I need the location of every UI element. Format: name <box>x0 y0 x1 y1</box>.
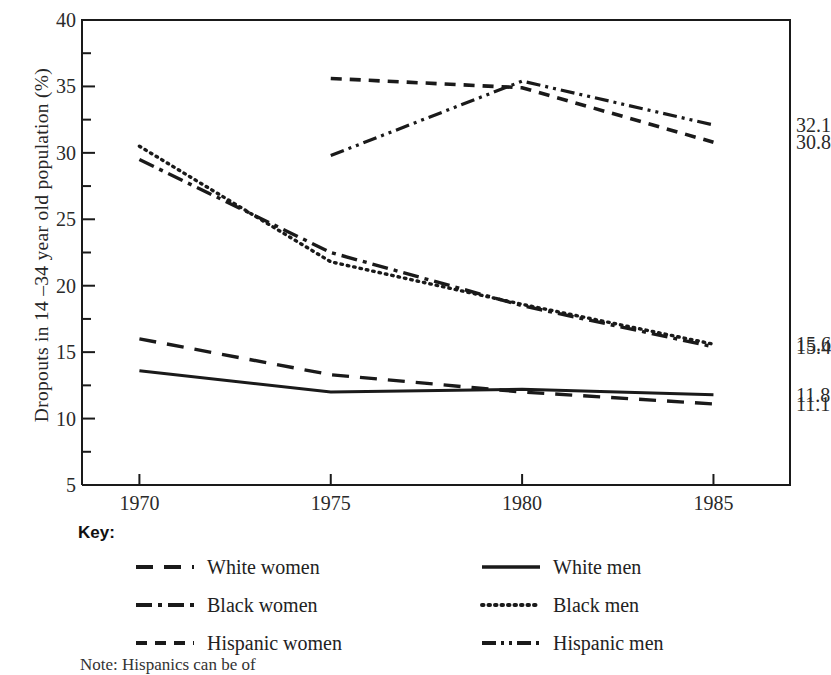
axes <box>82 20 790 485</box>
legend-item: Black women <box>134 591 318 619</box>
x-tick-label: 1975 <box>311 492 351 515</box>
legend-item: White men <box>480 553 641 581</box>
legend-swatch <box>480 595 542 615</box>
legend-line-sample <box>480 557 542 577</box>
legend-item: Black men <box>480 591 639 619</box>
legend-swatch <box>134 633 196 653</box>
series-line <box>139 146 713 344</box>
x-tick-label: 1970 <box>119 492 159 515</box>
y-tick-label: 40 <box>56 9 76 32</box>
legend-swatch <box>134 557 196 577</box>
series-lines <box>139 78 713 404</box>
x-tick-label: 1980 <box>502 492 542 515</box>
legend-item: White women <box>134 553 320 581</box>
legend-label: White men <box>553 557 641 577</box>
series-end-label: 11.8 <box>796 383 830 406</box>
y-tick-label: 10 <box>56 407 76 430</box>
legend-item: Hispanic men <box>480 629 664 657</box>
y-tick-label: 30 <box>56 141 76 164</box>
series-line <box>139 339 713 404</box>
legend-label: Hispanic men <box>553 633 664 653</box>
chart-svg <box>0 0 806 510</box>
legend-line-sample <box>480 595 542 615</box>
y-tick-label: 20 <box>56 274 76 297</box>
legend-line-sample <box>134 595 196 615</box>
figure-footnote: Note: Hispanics can be of <box>80 655 256 675</box>
legend-label: Black women <box>207 595 318 615</box>
plot-area: 510152025303540 1970197519801985 11.111.… <box>0 0 806 510</box>
series-end-label: 15.6 <box>796 333 831 356</box>
y-tick-label: 5 <box>66 474 76 497</box>
legend-swatch <box>480 557 542 577</box>
legend-line-sample <box>480 633 542 653</box>
y-tick-label: 25 <box>56 208 76 231</box>
legend-label: White women <box>207 557 320 577</box>
y-tick-label: 35 <box>56 75 76 98</box>
legend-label: Hispanic women <box>207 633 342 653</box>
series-end-label: 32.1 <box>796 113 831 136</box>
legend-line-sample <box>134 557 196 577</box>
legend-line-sample <box>134 633 196 653</box>
legend-swatch <box>480 633 542 653</box>
key-title: Key: <box>78 523 115 543</box>
series-line <box>331 81 714 155</box>
legend-label: Black men <box>553 595 639 615</box>
y-tick-label: 15 <box>56 341 76 364</box>
legend-item: Hispanic women <box>134 629 342 657</box>
legend-swatch <box>134 595 196 615</box>
series-line <box>139 160 713 347</box>
x-tick-label: 1985 <box>693 492 733 515</box>
